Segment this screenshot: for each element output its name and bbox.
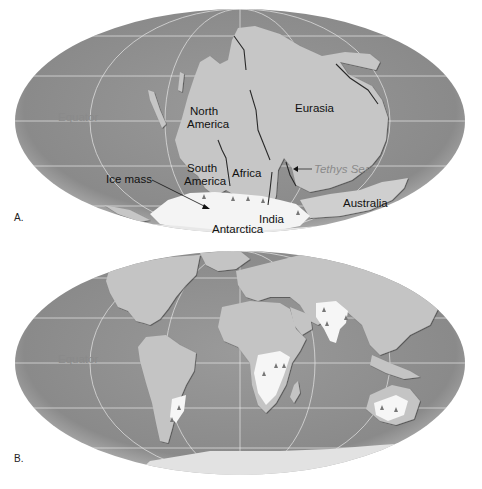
equator-label: Equator [58,353,98,365]
pangaea-map: Equator North America Eurasia South Amer… [0,0,482,245]
label-south-america-2: America [184,175,227,187]
modern-world-map: Equator [0,245,482,489]
label-ice-mass: Ice mass [106,173,152,185]
label-south-america-1: South [187,162,217,174]
label-australia: Australia [343,197,388,209]
label-antarctica: Antarctica [212,223,264,235]
label-north-america-2: America [187,118,230,130]
equator-label: Equator [58,111,98,123]
label-tethys-sea: Tethys Sea [314,163,371,175]
panel-letter-a: A. [14,212,23,223]
label-north-america-1: North [190,105,218,117]
label-africa: Africa [232,167,262,179]
label-eurasia: Eurasia [295,102,335,114]
map-panel-a: Equator North America Eurasia South Amer… [0,0,482,245]
map-panel-b: Equator B. [0,245,482,489]
panel-letter-b: B. [14,453,23,464]
